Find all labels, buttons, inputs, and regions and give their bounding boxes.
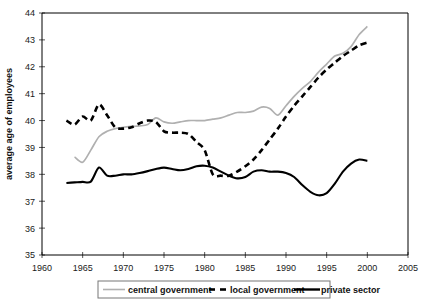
x-tick-label: 1960 — [32, 263, 52, 273]
x-tick-label: 1980 — [195, 263, 215, 273]
chart-legend: central government local government priv… — [98, 281, 381, 298]
x-tick-label: 1970 — [113, 263, 133, 273]
legend-label-central-government: central government — [128, 285, 212, 295]
y-tick-label: 41 — [25, 89, 35, 99]
series-line-central-government — [75, 26, 368, 162]
y-tick-label: 42 — [25, 62, 35, 72]
y-tick-label: 36 — [25, 224, 35, 234]
line-chart: average age of employees 353637383940414… — [0, 0, 427, 305]
y-tick-label: 43 — [25, 35, 35, 45]
data-series-group — [66, 26, 367, 195]
y-tick-label: 37 — [25, 197, 35, 207]
x-tick-label: 1975 — [154, 263, 174, 273]
y-tick-label: 44 — [25, 8, 35, 18]
y-tick-label: 35 — [25, 250, 35, 260]
series-line-local-government — [66, 43, 367, 177]
x-tick-label: 1965 — [73, 263, 93, 273]
y-axis-title-text: average age of employees — [4, 68, 14, 180]
y-axis-title: average age of employees — [4, 68, 14, 180]
legend-label-local-government: local government — [230, 285, 305, 295]
y-tick-label: 38 — [25, 170, 35, 180]
y-tick-label: 39 — [25, 143, 35, 153]
series-line-private-sector — [66, 159, 367, 195]
x-tick-label: 1985 — [235, 263, 255, 273]
x-tick-label: 2005 — [398, 263, 418, 273]
x-tick-label: 1995 — [317, 263, 337, 273]
x-tick-label: 2000 — [357, 263, 377, 273]
legend-label-private-sector: private sector — [321, 285, 381, 295]
y-tick-label: 40 — [25, 116, 35, 126]
chart-container: average age of employees 353637383940414… — [0, 0, 427, 305]
x-tick-label: 1990 — [276, 263, 296, 273]
